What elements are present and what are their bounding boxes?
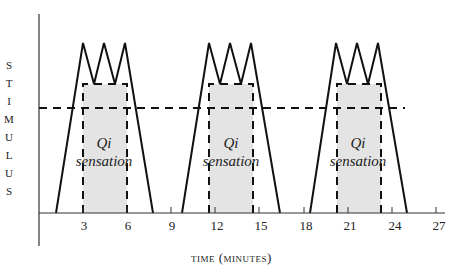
svg-text:21: 21 [344,218,357,233]
svg-text:18: 18 [300,218,313,233]
chart-canvas: 3 6 9 12 15 18 21 24 27 Qi sensation Qi … [0,0,463,276]
qi-label-3-line1: Qi [351,135,366,151]
qi-label-2-line2: sensation [203,153,260,169]
qi-label-1-line1: Qi [97,135,112,151]
svg-text:3: 3 [81,218,88,233]
svg-text:12: 12 [211,218,224,233]
svg-text:6: 6 [125,218,132,233]
x-ticks [83,207,436,213]
svg-text:27: 27 [433,218,447,233]
x-axis-label: time (minutes) [0,250,463,266]
y-axis-label: S T I M U L U S [2,56,16,200]
qi-label-1-line2: sensation [76,153,133,169]
svg-text:15: 15 [255,218,268,233]
qi-label-2-line1: Qi [224,135,239,151]
x-tick-labels: 3 6 9 12 15 18 21 24 27 [81,218,446,233]
svg-text:9: 9 [169,218,176,233]
qi-label-3-line2: sensation [330,153,387,169]
svg-text:24: 24 [389,218,403,233]
